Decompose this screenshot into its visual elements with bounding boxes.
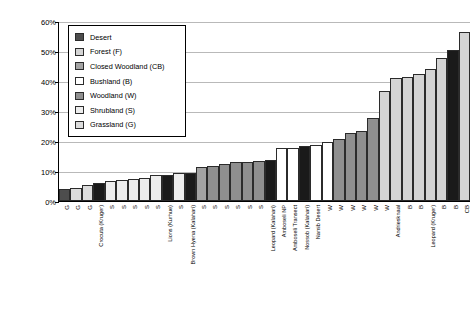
bar[interactable] — [356, 131, 367, 201]
bar[interactable] — [447, 50, 458, 201]
bar-slot — [356, 22, 367, 201]
bar[interactable] — [59, 189, 70, 201]
bar-chart: 0%10%20%30%40%50%60% GGGCrocuta (Kruger)… — [0, 0, 476, 316]
bar[interactable] — [173, 173, 184, 201]
bar-slot — [413, 22, 424, 201]
bar[interactable] — [70, 188, 81, 202]
x-label-slot: W — [367, 204, 378, 314]
bar[interactable] — [253, 161, 264, 202]
x-label-slot: G — [58, 204, 69, 314]
x-label-slot: W — [321, 204, 332, 314]
bar[interactable] — [139, 178, 150, 201]
bar[interactable] — [105, 181, 116, 201]
y-tick-label: 50% — [38, 48, 56, 57]
bar-slot — [287, 22, 298, 201]
x-label-slot: Namib Desert — [310, 204, 321, 314]
x-label-slot: S — [115, 204, 126, 314]
bar[interactable] — [310, 145, 321, 201]
bar[interactable] — [379, 91, 390, 201]
bar-slot — [425, 22, 436, 201]
x-label-slot: W — [378, 204, 389, 314]
x-label-slot: Brown Hyena (Kalahari) — [184, 204, 195, 314]
bar-slot — [333, 22, 344, 201]
bar[interactable] — [276, 148, 287, 201]
bar-slot — [310, 22, 321, 201]
bar-slot — [299, 22, 310, 201]
legend-item-grassland[interactable]: Grassland (G) — [75, 118, 180, 133]
bar[interactable] — [413, 74, 424, 201]
bar-slot — [390, 22, 401, 201]
legend-label: Woodland (W) — [90, 91, 137, 100]
bar[interactable] — [219, 164, 230, 201]
legend-item-forest[interactable]: Forest (F) — [75, 45, 180, 60]
bar[interactable] — [162, 175, 173, 201]
legend-swatch-icon — [75, 33, 84, 41]
legend-item-woodland[interactable]: Woodland (W) — [75, 88, 180, 103]
bar[interactable] — [299, 146, 310, 201]
legend-swatch-icon — [75, 106, 84, 114]
y-tick-label: 10% — [38, 168, 56, 177]
y-tick-label: 40% — [38, 78, 56, 87]
x-label-slot: B — [401, 204, 412, 314]
legend-label: Forest (F) — [90, 47, 122, 56]
x-label-slot: W — [344, 204, 355, 314]
bar-slot — [196, 22, 207, 201]
bar-slot — [253, 22, 264, 201]
bar[interactable] — [93, 183, 104, 201]
bar-slot — [345, 22, 356, 201]
legend-item-shrubland[interactable]: Shrubland (S) — [75, 103, 180, 118]
bar-slot — [367, 22, 378, 201]
bar[interactable] — [402, 77, 413, 202]
bar-slot — [230, 22, 241, 201]
legend-swatch-icon — [75, 62, 84, 70]
bar[interactable] — [230, 162, 241, 201]
x-label-slot: B — [413, 204, 424, 314]
y-tick-label: 60% — [38, 18, 56, 27]
legend-item-cb[interactable]: Closed Woodland (CB) — [75, 59, 180, 74]
bar[interactable] — [287, 148, 298, 201]
bar-slot — [379, 22, 390, 201]
bar-slot — [459, 22, 470, 201]
legend-item-desert[interactable]: Desert — [75, 30, 180, 45]
x-label-slot: S — [150, 204, 161, 314]
bar-slot — [402, 22, 413, 201]
x-label-slot: Leopard (Kalahari) — [264, 204, 275, 314]
bar[interactable] — [367, 118, 378, 201]
bar[interactable] — [322, 142, 333, 201]
bar[interactable] — [116, 180, 127, 201]
bar[interactable] — [345, 133, 356, 201]
bar[interactable] — [128, 179, 139, 202]
legend-label: Closed Woodland (CB) — [90, 62, 165, 71]
bar[interactable] — [390, 78, 401, 201]
bar[interactable] — [436, 58, 447, 201]
bar-slot — [207, 22, 218, 201]
x-label-slot: CB — [458, 204, 469, 314]
bar[interactable] — [459, 32, 470, 202]
x-axis-labels: GGGCrocuta (Kruger)SSSSSLions (Kurhue)SB… — [58, 204, 470, 314]
x-label-slot: B — [435, 204, 446, 314]
bar[interactable] — [425, 69, 436, 201]
y-tick-label: 30% — [38, 108, 56, 117]
bar[interactable] — [265, 160, 276, 201]
bar[interactable] — [196, 167, 207, 202]
x-label-slot: Leopard (Kruger) — [424, 204, 435, 314]
bar[interactable] — [150, 175, 161, 201]
x-label-slot: S — [241, 204, 252, 314]
bar[interactable] — [82, 185, 93, 202]
bar[interactable] — [185, 173, 196, 201]
x-label-slot: Nossob (Kalahari) — [298, 204, 309, 314]
x-label-slot: Amboseli Transect — [287, 204, 298, 314]
bar[interactable] — [207, 166, 218, 201]
x-label-slot: B — [447, 204, 458, 314]
legend: DesertForest (F)Closed Woodland (CB) Bus… — [68, 25, 186, 137]
bar[interactable] — [242, 162, 253, 201]
legend-item-bushland[interactable]: Bushland (B) — [75, 74, 180, 89]
x-label-slot: Lions (Kurhue) — [161, 204, 172, 314]
x-label-slot: S — [207, 204, 218, 314]
x-label-slot: S — [138, 204, 149, 314]
x-label-slot: S — [195, 204, 206, 314]
y-tick-label: 0% — [38, 198, 56, 207]
bar[interactable] — [333, 139, 344, 201]
bar-slot — [265, 22, 276, 201]
legend-swatch-icon — [75, 121, 84, 129]
